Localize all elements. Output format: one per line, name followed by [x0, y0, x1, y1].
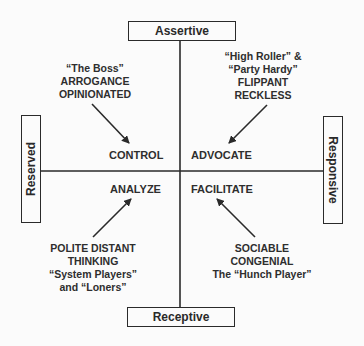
- axis-label-reserved: Reserved: [21, 115, 41, 223]
- quadrant-label-analyze: ANALYZE: [110, 183, 161, 195]
- axis-label-receptive-text: Receptive: [153, 310, 210, 324]
- description-line: “Party Hardy”: [222, 63, 304, 76]
- social-style-quadrant-diagram: Assertive Receptive Reserved Responsive …: [0, 0, 364, 346]
- arrow-bottom-right: [217, 199, 255, 237]
- axis-label-assertive: Assertive: [128, 21, 236, 41]
- quadrant-label-advocate: ADVOCATE: [191, 149, 252, 161]
- arrow-bottom-left: [93, 199, 131, 237]
- description-line: “High Roller” &: [222, 50, 304, 63]
- description-line: “System Players”: [48, 268, 138, 281]
- axis-label-receptive: Receptive: [127, 307, 235, 327]
- description-top-right: “High Roller” & “Party Hardy” FLIPPANT R…: [222, 50, 304, 102]
- description-line: RECKLESS: [222, 89, 304, 102]
- axis-label-responsive: Responsive: [323, 116, 343, 224]
- description-line: OPINIONATED: [55, 88, 135, 101]
- description-line: “The Boss”: [55, 62, 135, 75]
- quadrant-label-control: CONTROL: [109, 149, 163, 161]
- description-line: ARROGANCE: [55, 75, 135, 88]
- description-line: THINKING: [48, 255, 138, 268]
- axes-and-arrows: [0, 0, 364, 346]
- description-line: POLITE DISTANT: [48, 242, 138, 255]
- axis-label-reserved-text: Reserved: [24, 142, 38, 196]
- description-line: The “Hunch Player”: [212, 268, 312, 281]
- quadrant-label-facilitate: FACILITATE: [191, 183, 253, 195]
- description-line: SOCIABLE: [212, 242, 312, 255]
- description-bottom-right: SOCIABLE CONGENIAL The “Hunch Player”: [212, 242, 312, 281]
- description-top-left: “The Boss” ARROGANCE OPINIONATED: [55, 62, 135, 101]
- arrow-top-right: [229, 105, 267, 143]
- description-line: and “Loners”: [48, 281, 138, 294]
- arrow-top-left: [92, 104, 129, 143]
- description-line: FLIPPANT: [222, 76, 304, 89]
- axis-label-assertive-text: Assertive: [155, 24, 209, 38]
- description-bottom-left: POLITE DISTANT THINKING “System Players”…: [48, 242, 138, 294]
- axis-label-responsive-text: Responsive: [326, 136, 340, 203]
- description-line: CONGENIAL: [212, 255, 312, 268]
